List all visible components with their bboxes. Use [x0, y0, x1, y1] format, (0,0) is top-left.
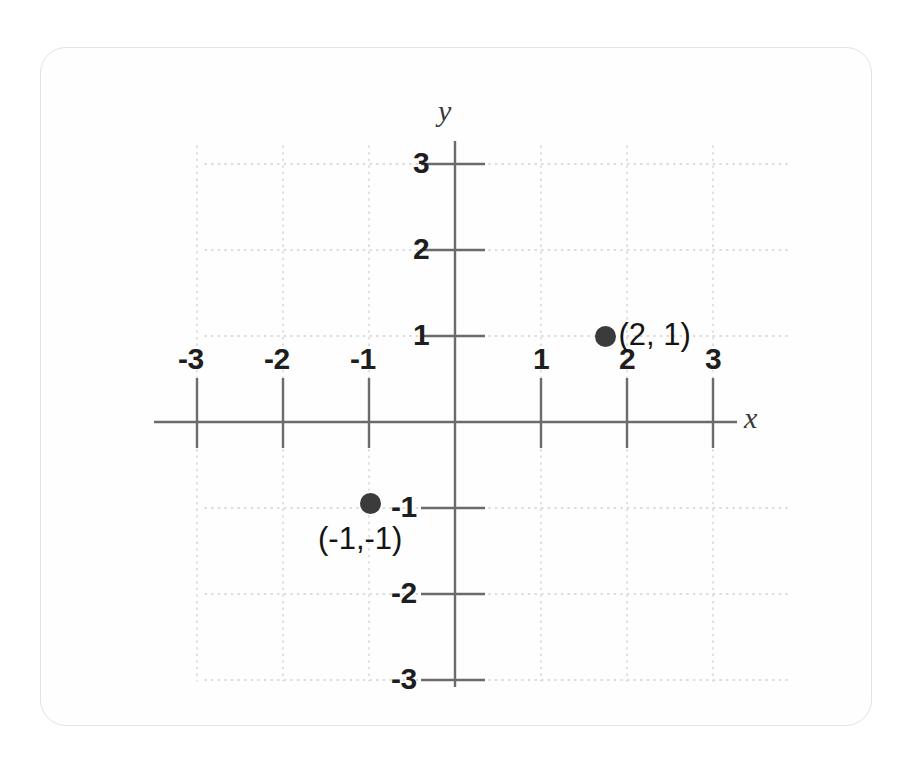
- plotted-point-label: (2, 1): [619, 319, 691, 350]
- y-tick-label: 2: [413, 234, 429, 264]
- x-tick-label: -3: [178, 344, 204, 374]
- plotted-point-label: (-1,-1): [318, 523, 402, 554]
- y-tick-label: -2: [391, 578, 417, 608]
- plotted-point-marker[interactable]: [360, 493, 381, 514]
- y-tick-label: -1: [391, 492, 417, 522]
- plot-canvas: [0, 0, 913, 782]
- gridlines-group: [197, 146, 790, 681]
- x-tick-label: -2: [264, 344, 290, 374]
- plotted-point-marker[interactable]: [595, 326, 616, 347]
- y-tick-label: -3: [391, 664, 417, 694]
- x-tick-label: 1: [533, 344, 549, 374]
- axes-group: [154, 141, 737, 687]
- x-tick-label: -1: [350, 344, 376, 374]
- y-tick-label: 3: [413, 148, 429, 178]
- y-tick-label: 1: [413, 320, 429, 350]
- x-axis-label: x: [744, 403, 757, 433]
- coordinate-plane-figure: y x -3-2-1123321-1-2-3 (2, 1)(-1,-1): [0, 0, 913, 782]
- x-tick-label: 3: [705, 344, 721, 374]
- y-axis-label: y: [438, 96, 451, 126]
